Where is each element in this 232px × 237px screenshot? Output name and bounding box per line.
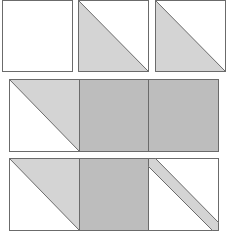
row-3 [10, 159, 219, 231]
diagonal-stripe-square [149, 159, 219, 231]
solid-medium-square [80, 159, 149, 231]
half-square-triangle-unit [10, 159, 80, 231]
solid-medium-square [149, 80, 219, 152]
half-square-triangle-unit [10, 80, 80, 152]
solid-medium-square [80, 80, 149, 152]
row-1 [3, 1, 226, 72]
row-2 [10, 80, 219, 152]
half-square-triangle-unit [79, 1, 149, 72]
half-square-triangle-unit [156, 1, 226, 72]
quilt-diagram [0, 0, 232, 237]
plain-white-square [3, 1, 73, 72]
